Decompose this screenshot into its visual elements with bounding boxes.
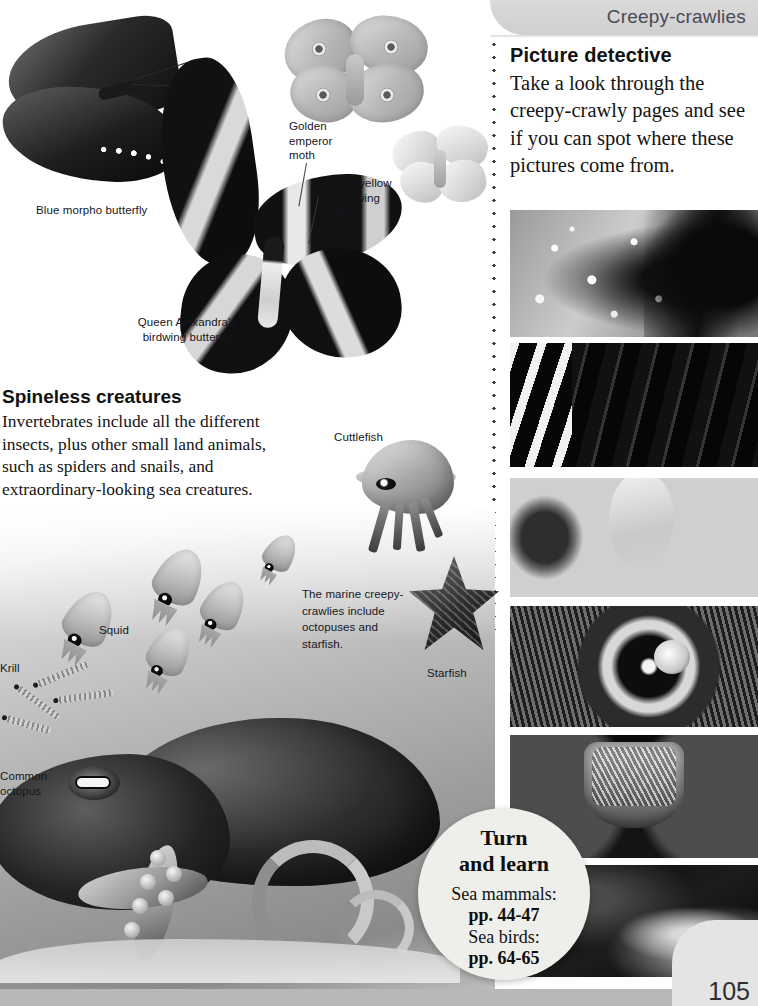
moth-eyespot xyxy=(312,42,326,56)
starfish-illustration xyxy=(408,556,500,654)
label-squid: Squid xyxy=(99,623,129,638)
label-golden-emperor-moth: Golden emperor moth xyxy=(289,119,341,163)
octopus-sucker xyxy=(158,890,174,906)
octopus-sucker xyxy=(166,866,182,882)
caption-marine-creepy-crawlies: The marine creepy-crawlies include octop… xyxy=(302,586,404,653)
label-blue-morpho: Blue morpho butterfly xyxy=(36,203,147,218)
cuttlefish-eye xyxy=(376,478,396,490)
butterfly-forewing-left xyxy=(149,53,269,272)
book-page: Creepy-crawlies Blue xyxy=(0,0,758,1006)
turn-and-learn-entry1-label: Sea mammals: xyxy=(418,884,590,905)
detective-photo-2 xyxy=(510,343,758,467)
turn-and-learn-title-line1: Turn xyxy=(418,825,590,851)
octopus-eye xyxy=(68,766,120,800)
krill-illustration xyxy=(56,689,114,704)
cuttlefish-illustration xyxy=(352,440,464,558)
cuttlefish-arm xyxy=(393,504,404,550)
label-common-octopus: Common octopus xyxy=(0,769,56,798)
spineless-heading: Spineless creatures xyxy=(2,386,286,408)
label-large-yellow-underwing-moth: Large yellow underwing moth xyxy=(326,176,408,220)
label-cuttlefish: Cuttlefish xyxy=(334,430,383,445)
moth-body xyxy=(434,150,446,188)
cuttlefish-arm xyxy=(368,501,391,553)
label-krill: Krill xyxy=(0,661,20,676)
common-octopus-illustration xyxy=(0,718,460,983)
octopus-sucker xyxy=(124,922,140,938)
octopus-sucker xyxy=(150,850,166,866)
krill-illustration xyxy=(35,661,90,688)
turn-and-learn-title-line2: and learn xyxy=(418,851,590,877)
header-shadow xyxy=(490,35,758,38)
turn-and-learn-badge: Turn and learn Sea mammals: pp. 44-47 Se… xyxy=(418,808,590,980)
turn-and-learn-entry1-pages[interactable]: pp. 44-47 xyxy=(418,905,590,926)
turn-and-learn-entry2-pages[interactable]: pp. 64-65 xyxy=(418,948,590,969)
label-queen-alexandras-birdwing: Queen Alexandra's birdwing butterfly xyxy=(131,315,243,344)
label-starfish: Starfish xyxy=(427,666,467,681)
footer-bar xyxy=(0,989,758,1006)
turn-and-learn-entry2-label: Sea birds: xyxy=(418,927,590,948)
picture-detective-heading: Picture detective xyxy=(510,44,750,67)
detective-photo-3 xyxy=(510,478,758,597)
picture-detective-body: Take a look through the creepy-crawly pa… xyxy=(510,70,750,179)
moth-eyespot xyxy=(384,40,398,54)
octopus-sucker xyxy=(132,898,148,914)
detective-photo-1 xyxy=(510,210,758,337)
picture-detective-panel: Picture detective Take a look through th… xyxy=(510,44,750,179)
detective-photo-4 xyxy=(510,606,758,727)
squid-illustration xyxy=(251,529,303,589)
squid-illustration xyxy=(133,620,199,699)
starfish-texture xyxy=(408,556,500,654)
chapter-title: Creepy-crawlies xyxy=(607,6,746,28)
page-number: 105 xyxy=(708,977,750,1006)
spineless-body: Invertebrates include all the different … xyxy=(2,410,286,501)
octopus-sucker xyxy=(140,874,156,890)
spineless-creatures-section: Spineless creatures Invertebrates includ… xyxy=(2,386,286,501)
